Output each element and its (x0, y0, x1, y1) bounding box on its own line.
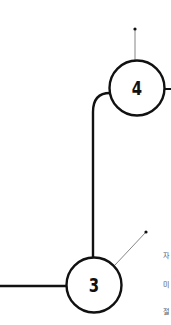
side-text-line-3: 절 (163, 308, 169, 316)
step-4-number: 4 (125, 78, 148, 98)
step-3-pin-line (115, 232, 146, 265)
side-text-line-2: 미 (163, 281, 169, 289)
step-3-number: 3 (82, 275, 105, 295)
connector-4-to-3 (93, 93, 110, 258)
side-text-line-1: 자 (163, 252, 169, 260)
step-3-pin-dot (144, 230, 147, 233)
step-4-pin-dot (133, 27, 136, 30)
